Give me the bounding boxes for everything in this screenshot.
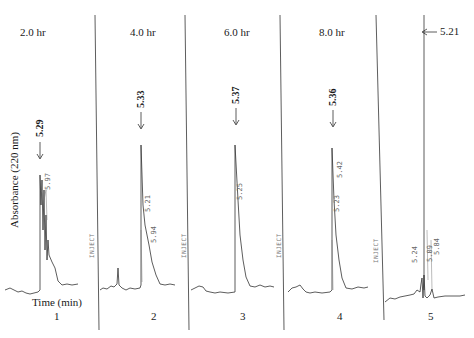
main-peak-rt-panel-3: 5.37 xyxy=(230,87,241,105)
inject-line-4 xyxy=(280,15,284,330)
main-peak-rt-panel-4: 5.36 xyxy=(327,89,338,107)
y-axis-label: Absorbance (220 nm) xyxy=(8,132,20,228)
inject-label-panel-5: INJECT xyxy=(372,238,379,263)
time-label-panel-3: 6.0 hr xyxy=(224,26,250,38)
trace-panel-2 xyxy=(100,145,175,290)
minor-peak-rt: 5.84 xyxy=(433,238,441,255)
minor-peak-rt: 5.94 xyxy=(150,226,158,243)
trace-panel-4 xyxy=(288,148,368,293)
minor-peak-rt: 5.23 xyxy=(333,195,341,212)
panel-number-1: 1 xyxy=(54,310,60,322)
main-peak-rt-panel-5: 5.21 xyxy=(440,25,459,37)
inject-line-5 xyxy=(376,15,384,320)
inject-line-3 xyxy=(185,15,189,330)
panel-number-2: 2 xyxy=(151,310,157,322)
time-label-panel-4: 8.0 hr xyxy=(319,26,345,38)
minor-peak-rt: 5.25 xyxy=(236,183,244,200)
inject-line-2 xyxy=(95,15,99,330)
inject-label-panel-3: INJECT xyxy=(180,233,187,258)
minor-peak-rt: 5.21 xyxy=(144,195,152,212)
inject-label-panel-4: INJECT xyxy=(275,233,282,258)
panel-number-3: 3 xyxy=(240,310,246,322)
main-peak-rt-panel-1: 5.29 xyxy=(34,120,45,138)
main-peak-rt-panel-2: 5.33 xyxy=(135,91,146,109)
panel-number-4: 4 xyxy=(337,310,343,322)
panel-number-5: 5 xyxy=(428,310,434,322)
time-label-panel-1: 2.0 hr xyxy=(20,26,46,38)
minor-peak-rt: 5.97 xyxy=(44,173,52,190)
trace-panel-3 xyxy=(191,145,274,293)
minor-peak-rt: 5.24 xyxy=(411,246,419,263)
x-axis-label: Time (min) xyxy=(32,296,82,308)
minor-peak-rt: 5.42 xyxy=(336,161,344,178)
inject-label-panel-2: INJECT xyxy=(88,233,95,258)
trace-panel-5 xyxy=(385,275,465,302)
chromatogram-traces xyxy=(0,0,474,338)
chromatogram-figure: Absorbance (220 nm) Time (min) 2.0 hr 4.… xyxy=(0,0,474,338)
time-label-panel-2: 4.0 hr xyxy=(130,26,156,38)
